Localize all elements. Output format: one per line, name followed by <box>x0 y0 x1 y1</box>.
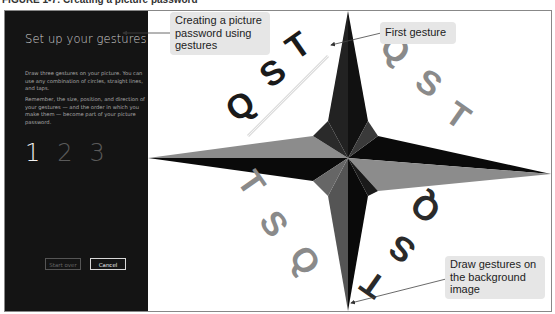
instructions-paragraph-1: Draw three gestures on your picture. You… <box>25 70 145 93</box>
step-3: 3 <box>90 139 105 167</box>
svg-text:T: T <box>439 94 478 137</box>
svg-text:S: S <box>409 61 449 105</box>
step-2: 2 <box>57 139 72 167</box>
cancel-button[interactable]: Cancel <box>90 258 126 270</box>
svg-text:T: T <box>353 263 392 306</box>
letter-s-dark: S <box>252 51 292 95</box>
svg-text:Q: Q <box>404 185 447 231</box>
panel-title: Set up your gestures <box>25 32 147 46</box>
start-over-button[interactable]: Start over <box>45 258 81 270</box>
figure-caption: FIGURE 1-7: Creating a picture password <box>2 0 198 5</box>
callout-creating-picture-password: Creating a picture password using gestur… <box>170 12 270 55</box>
gesture-step-indicator: 1 2 3 <box>25 139 105 167</box>
step-1: 1 <box>25 139 40 167</box>
svg-text:S: S <box>382 227 422 271</box>
letter-t-dark: T <box>278 24 317 67</box>
instructions-paragraph-2: Remember, the size, position, and direct… <box>25 96 145 126</box>
svg-text:S: S <box>252 203 296 243</box>
callout-draw-gestures: Draw gestures on the background image <box>445 256 545 299</box>
callout-first-gesture: First gesture <box>380 22 456 44</box>
svg-text:Q: Q <box>282 238 328 281</box>
gesture-setup-panel: Set up your gestures Draw three gestures… <box>5 11 148 311</box>
letter-q-dark: Q <box>218 82 261 128</box>
